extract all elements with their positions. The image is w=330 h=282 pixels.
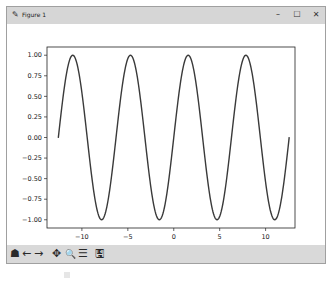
y-tick-label: 0.00 [28, 134, 42, 142]
y-tick-label: −0.75 [22, 195, 42, 203]
y-tick-label: −0.25 [22, 154, 42, 162]
pan-icon[interactable]: ✥ [52, 248, 61, 260]
x-tick-label: 0 [172, 233, 176, 241]
back-arrow-icon[interactable]: ← [22, 248, 31, 260]
figure-canvas[interactable]: −10−505101.000.750.500.250.00−0.25−0.50−… [7, 24, 325, 247]
minimize-button[interactable]: – [270, 9, 286, 21]
maximize-button[interactable]: ☐ [289, 9, 305, 21]
pen-icon: ✎ [12, 10, 19, 19]
taskbar-fragment [64, 272, 70, 278]
title-bar[interactable]: ✎ Figure 1 – ☐ ✕ [7, 7, 325, 24]
configure-subplots-icon[interactable]: ☰ [78, 248, 88, 260]
home-icon[interactable]: ☗ [10, 248, 20, 260]
line-chart: −10−505101.000.750.500.250.00−0.25−0.50−… [7, 24, 325, 247]
y-tick-label: −0.50 [22, 175, 42, 183]
x-tick-label: 5 [218, 233, 222, 241]
y-tick-label: 0.75 [28, 72, 42, 80]
x-tick-label: 10 [261, 233, 269, 241]
save-icon[interactable]: 🖫 [95, 248, 104, 260]
figure-window: ✎ Figure 1 – ☐ ✕ −10−505101.000.750.500.… [6, 6, 326, 264]
navigation-toolbar: ☗ ← → ✥ 🔍 ☰ 🖫 [7, 245, 325, 263]
window-title: Figure 1 [22, 11, 46, 18]
x-tick-label: −5 [123, 233, 133, 241]
y-tick-label: 0.50 [28, 93, 42, 101]
y-tick-label: 1.00 [28, 51, 42, 59]
close-button[interactable]: ✕ [308, 9, 324, 21]
zoom-icon[interactable]: 🔍 [65, 248, 76, 260]
y-tick-label: −1.00 [22, 216, 42, 224]
axes-frame [47, 47, 295, 228]
forward-arrow-icon[interactable]: → [34, 248, 43, 260]
x-tick-label: −10 [75, 233, 89, 241]
y-tick-label: 0.25 [28, 113, 42, 121]
